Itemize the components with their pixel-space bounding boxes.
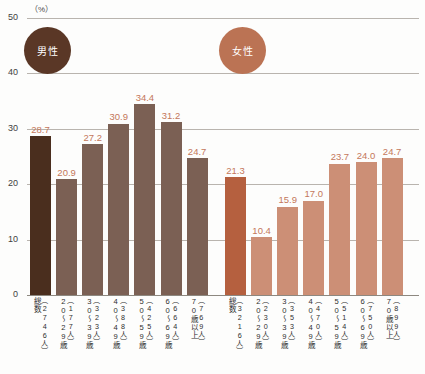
bar: 17.0 [303,201,324,295]
bar-value-label: 27.2 [83,133,102,143]
bar-value-label: 31.2 [162,111,181,121]
x-axis-label: （514人）50～59歳 [329,297,350,374]
x-axis-count: （230人） [262,297,270,374]
x-axis-label: （899人）70歳以上 [382,297,403,374]
x-axis-category: 50～59歳 [332,297,340,374]
bar: 31.2 [161,122,182,295]
bar: 21.3 [225,177,246,295]
x-axis-count: （899人） [392,297,400,374]
x-axis-label: （3216人）総数 [225,297,246,374]
bar: 20.9 [56,179,77,295]
bar: 24.7 [187,158,208,295]
x-axis-label: （2746人）総数 [30,297,51,374]
x-axis-label: （664人）60～69歳 [161,297,182,374]
bar: 10.4 [251,237,272,295]
x-axis-count: （664人） [171,297,179,374]
y-tick-0: 0 [0,290,18,299]
y-tick-40: 40 [0,68,18,77]
x-axis-count: （750人） [366,297,374,374]
bar-value-label: 15.9 [278,195,297,205]
x-axis-label: （425人）50～59歳 [134,297,155,374]
x-axis-count: （425人） [145,297,153,374]
bar-value-label: 10.4 [252,226,271,236]
bar-value-label: 24.0 [357,151,376,161]
bar: 23.7 [329,164,350,295]
legend-badge-male: 男性 [24,27,71,74]
bar-value-label: 24.7 [383,147,402,157]
bar-value-label: 23.7 [331,152,350,162]
bar: 34.4 [134,104,155,295]
gridline-0 [27,295,419,296]
x-axis-label: （769人）70歳以上 [187,297,208,374]
x-axis-category: 60～69歳 [163,297,171,374]
bar-value-label: 28.7 [31,125,50,135]
x-axis-count: （470人） [314,297,322,374]
y-tick-20: 20 [0,179,18,188]
x-axis-category: 40～49歳 [306,297,314,374]
x-axis-label: （353人）30～39歳 [277,297,298,374]
x-axis-count: （3216人） [236,297,244,374]
x-axis-label: （750人）60～69歳 [356,297,377,374]
y-tick-30: 30 [0,124,18,133]
x-axis-category: 50～59歳 [137,297,145,374]
bar-value-label: 24.7 [188,147,207,157]
bar: 27.2 [82,144,103,295]
bar: 15.9 [277,207,298,295]
x-axis-label: （177人）20～29歳 [56,297,77,374]
x-axis-labels: （2746人）総数（177人）20～29歳（323人）30～39歳（388人）4… [27,297,419,374]
y-tick-10: 10 [0,235,18,244]
x-axis-label: （323人）30～39歳 [82,297,103,374]
x-axis-count: （2746人） [41,297,49,374]
x-axis-count: （323人） [93,297,101,374]
y-tick-50: 50 [0,13,18,22]
x-axis-label: （388人）40～49歳 [108,297,129,374]
bar-value-label: 21.3 [226,166,245,176]
bar: 28.7 [30,136,51,295]
bar: 30.9 [108,124,129,295]
bar-chart: （%） 50 40 30 20 10 0 28.720.927.230.934.… [0,0,425,374]
bar: 24.7 [382,158,403,295]
x-axis-category: 40～49歳 [111,297,119,374]
bar-value-label: 30.9 [110,112,129,122]
x-axis-count: （177人） [67,297,75,374]
bar-value-label: 34.4 [136,93,155,103]
bar-value-label: 17.0 [305,189,324,199]
x-axis-label: （230人）20～29歳 [251,297,272,374]
x-axis-label: （470人）40～49歳 [303,297,324,374]
x-axis-count: （514人） [340,297,348,374]
x-axis-category: 60～69歳 [358,297,366,374]
bar: 24.0 [356,162,377,295]
y-axis-unit-label: （%） [30,3,53,14]
x-axis-count: （769人） [197,297,205,374]
legend-badge-female: 女性 [219,27,266,74]
bar-value-label: 20.9 [57,168,76,178]
x-axis-count: （388人） [119,297,127,374]
x-axis-count: （353人） [288,297,296,374]
